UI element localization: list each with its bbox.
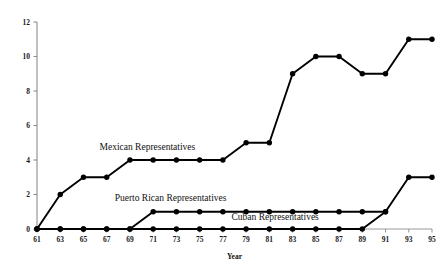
data-point-marker (104, 175, 109, 180)
data-point-marker (34, 226, 39, 231)
data-point-marker (406, 37, 411, 42)
x-tick-label: 95 (428, 235, 436, 244)
x-tick-label: 81 (266, 235, 274, 244)
y-tick-label: 12 (23, 18, 31, 27)
data-point-marker (360, 209, 365, 214)
data-point-marker (197, 157, 202, 162)
x-axis-title: Year (227, 252, 243, 261)
series-annotation-label: Puerto Rican Representatives (115, 193, 227, 203)
data-point-marker (220, 226, 225, 231)
x-tick-label: 73 (173, 235, 181, 244)
data-point-marker (174, 209, 179, 214)
data-point-marker (383, 71, 388, 76)
data-point-marker (81, 226, 86, 231)
data-point-marker (81, 175, 86, 180)
data-point-marker (197, 226, 202, 231)
data-point-marker (174, 226, 179, 231)
y-tick-label: 0 (26, 225, 30, 234)
data-point-marker (267, 140, 272, 145)
y-tick-label: 8 (26, 87, 30, 96)
data-point-marker (150, 209, 155, 214)
x-tick-label: 87 (335, 235, 343, 244)
data-point-marker (150, 226, 155, 231)
x-tick-label: 63 (56, 235, 64, 244)
x-tick-label: 91 (382, 235, 390, 244)
x-tick-label: 77 (219, 235, 227, 244)
data-point-marker (150, 157, 155, 162)
y-tick-label: 2 (26, 190, 30, 199)
data-point-marker (406, 175, 411, 180)
x-tick-label: 83 (289, 235, 297, 244)
data-point-marker (267, 226, 272, 231)
data-point-marker (290, 226, 295, 231)
data-point-marker (290, 71, 295, 76)
x-tick-label: 69 (126, 235, 134, 244)
data-point-marker (58, 226, 63, 231)
data-point-marker (360, 226, 365, 231)
data-point-marker (313, 226, 318, 231)
x-tick-label: 67 (103, 235, 111, 244)
line-chart: 024681012 616365676971737577798183858789… (0, 0, 442, 270)
data-point-marker (220, 157, 225, 162)
x-tick-label: 65 (80, 235, 88, 244)
data-point-marker (383, 209, 388, 214)
x-tick-label: 61 (33, 235, 41, 244)
chart-container: 024681012 616365676971737577798183858789… (0, 0, 442, 270)
data-point-marker (360, 71, 365, 76)
x-tick-label: 89 (359, 235, 367, 244)
data-point-marker (336, 209, 341, 214)
x-tick-label: 75 (196, 235, 204, 244)
data-point-marker (336, 54, 341, 59)
series-annotation-label: Mexican Representatives (99, 142, 195, 152)
data-point-marker (429, 37, 434, 42)
data-point-marker (127, 157, 132, 162)
data-point-marker (104, 226, 109, 231)
data-point-marker (220, 209, 225, 214)
data-point-marker (243, 140, 248, 145)
data-point-marker (197, 209, 202, 214)
data-point-marker (313, 54, 318, 59)
data-point-marker (243, 226, 248, 231)
series-annotation-label: Cuban Representatives (231, 212, 319, 222)
x-tick-label: 93 (405, 235, 413, 244)
x-tick-label: 85 (312, 235, 320, 244)
data-point-marker (336, 226, 341, 231)
data-point-marker (174, 157, 179, 162)
x-tick-label: 71 (149, 235, 157, 244)
y-tick-label: 10 (23, 52, 31, 61)
data-point-marker (58, 192, 63, 197)
y-tick-label: 4 (26, 156, 30, 165)
data-point-marker (127, 226, 132, 231)
axis-title-layer: Year (227, 252, 243, 261)
data-point-marker (429, 175, 434, 180)
x-tick-label: 79 (242, 235, 250, 244)
y-tick-label: 6 (26, 121, 30, 130)
